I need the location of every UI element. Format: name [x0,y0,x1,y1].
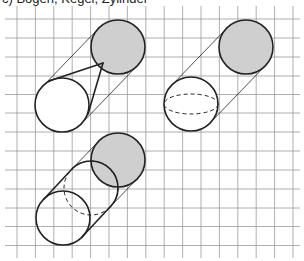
cylinder-section-edge-line [82,207,110,237]
back-circle-gray [91,20,145,74]
cone-edge-line [49,63,103,81]
back-circle-gray [91,133,145,187]
front-circle-white [164,77,218,131]
cylinder-edge-line [172,28,227,85]
sphere-in-cylinder-figure [164,20,273,131]
front-circle-white [35,78,89,132]
back-circle-gray [219,20,273,74]
cylinder-section-edge-line [44,169,72,199]
geometry-diagram [0,0,304,261]
